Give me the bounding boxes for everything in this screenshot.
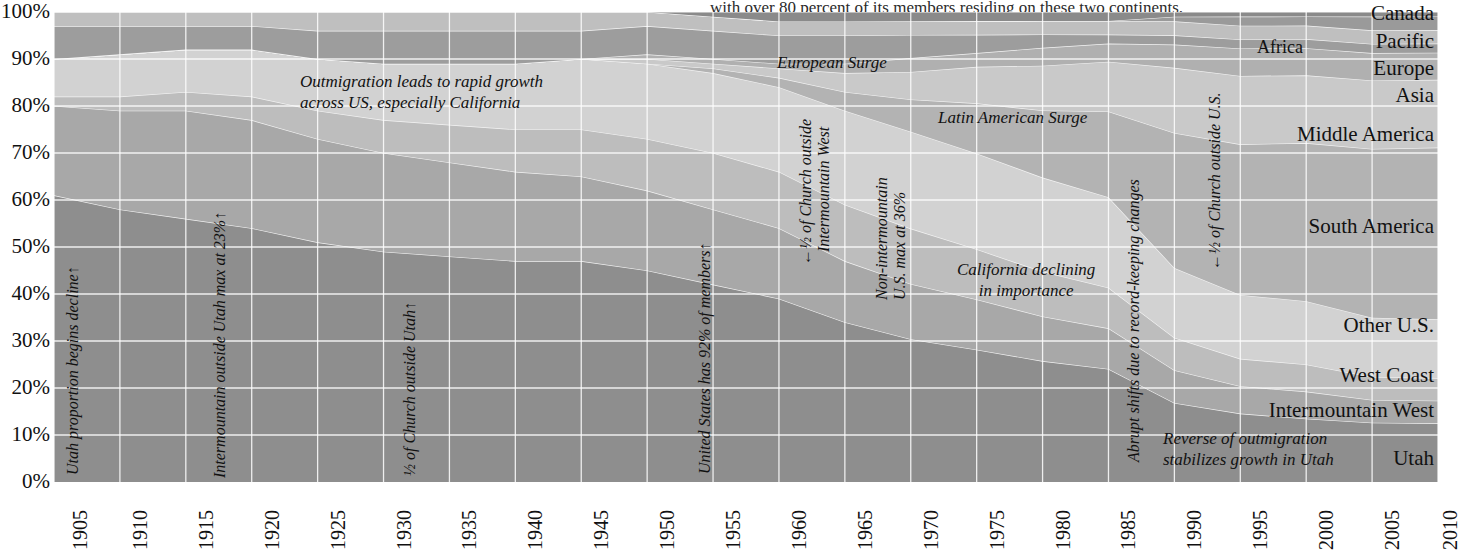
category-label-europe: Europe [1373, 57, 1434, 79]
plot-area [54, 12, 1438, 482]
annotation-reverse-outmigration: Reverse of outmigration stabilizes growt… [1163, 428, 1334, 470]
arrow-up-icon: ↑ [696, 242, 713, 250]
x-tick-1910: 1910 [130, 510, 150, 550]
annotation-california-declining: California declining in importance [957, 259, 1095, 301]
x-axis: 1905191019151920192519301935194019451950… [0, 484, 1438, 556]
annotation-outmigration-line2: across US, especially California [300, 92, 543, 113]
arrow-up-icon: ↑ [401, 302, 418, 310]
y-tick-60: 60% [0, 189, 50, 210]
x-tick-1965: 1965 [855, 510, 875, 550]
category-label-utah: Utah [1393, 447, 1434, 469]
arrow-up-icon: ↑ [211, 212, 228, 220]
annotation-latin-american-surge: Latin American Surge [938, 107, 1087, 128]
annotation-utah-decline: Utah proportion begins decline↑ [64, 266, 82, 475]
x-tick-1940: 1940 [525, 510, 545, 550]
category-label-africa: Africa [1257, 36, 1303, 58]
annotation-half-outside-us-text: ½ of Church outside U.S. [1206, 92, 1223, 254]
x-tick-2010: 2010 [1440, 510, 1460, 550]
category-label-south-america: South America [1309, 215, 1434, 237]
arrow-left-icon: ← [1206, 254, 1223, 270]
x-tick-1930: 1930 [394, 510, 414, 550]
x-tick-2000: 2000 [1316, 510, 1336, 550]
x-tick-1960: 1960 [789, 510, 809, 550]
annotation-california-line2: in importance [957, 280, 1095, 301]
annotation-half-outside-intermountain: ←½ of Church outside Intermountain West [797, 119, 833, 265]
y-tick-20: 20% [0, 377, 50, 398]
annotation-abrupt-shifts: Abrupt shifts due to record-keeping chan… [1125, 179, 1143, 462]
stacked-area-svg [54, 12, 1438, 482]
x-tick-1980: 1980 [1053, 510, 1073, 550]
x-tick-1935: 1935 [459, 510, 479, 550]
arrow-up-icon: ↑ [64, 266, 81, 274]
y-tick-50: 50% [0, 236, 50, 257]
annotation-half-intermountain-text1: ½ of Church outside [797, 119, 814, 249]
y-tick-80: 80% [0, 95, 50, 116]
arrow-left-icon: ← [797, 249, 814, 265]
x-tick-1945: 1945 [591, 510, 611, 550]
category-label-middle-america: Middle America [1297, 123, 1434, 145]
annotation-us-92-percent: United States has 92% of members↑ [696, 242, 714, 474]
x-tick-1950: 1950 [657, 510, 677, 550]
category-label-asia: Asia [1396, 84, 1435, 106]
x-tick-1985: 1985 [1118, 510, 1138, 550]
category-label-intermountain-west: Intermountain West [1269, 399, 1434, 421]
y-tick-40: 40% [0, 283, 50, 304]
x-tick-1955: 1955 [723, 510, 743, 550]
annotation-non-intermountain-line1: Non-intermountain [873, 177, 891, 300]
annotation-half-intermountain-text2: Intermountain West [815, 127, 832, 252]
x-tick-1925: 1925 [328, 510, 348, 550]
annotation-outmigration-line1: Outmigration leads to rapid growth [300, 71, 543, 92]
y-tick-90: 90% [0, 48, 50, 69]
annotation-california-line1: California declining [957, 259, 1095, 280]
x-tick-1920: 1920 [262, 510, 282, 550]
annotation-half-intermountain-line2: Intermountain West [815, 119, 833, 265]
annotation-outmigration: Outmigration leads to rapid growth acros… [300, 71, 543, 113]
category-label-west-coast: West Coast [1339, 364, 1434, 386]
x-tick-2005: 2005 [1382, 510, 1402, 550]
annotation-reverse-line2: stabilizes growth in Utah [1163, 449, 1334, 470]
annotation-half-outside-utah-text: ½ of Church outside Utah [401, 310, 418, 476]
category-label-other-us: Other U.S. [1344, 314, 1434, 336]
y-tick-30: 30% [0, 330, 50, 351]
annotation-non-intermountain-line2: U.S. max at 36% [891, 177, 909, 300]
x-tick-1915: 1915 [196, 510, 216, 550]
x-tick-1970: 1970 [921, 510, 941, 550]
annotation-us-92-percent-text: United States has 92% of members [696, 250, 713, 474]
annotation-intermountain-max-text: Intermountain outside Utah max at 23% [211, 220, 228, 478]
y-tick-100: 100% [0, 1, 50, 22]
annotation-european-surge: European Surge [777, 52, 887, 73]
x-tick-1975: 1975 [987, 510, 1007, 550]
y-tick-10: 10% [0, 424, 50, 445]
annotation-non-intermountain-max: Non-intermountain U.S. max at 36% [873, 177, 909, 300]
annotation-half-intermountain-line1: ←½ of Church outside [797, 119, 815, 265]
y-tick-70: 70% [0, 142, 50, 163]
annotation-reverse-line1: Reverse of outmigration [1163, 428, 1334, 449]
x-tick-1995: 1995 [1250, 510, 1270, 550]
category-label-canada: Canada [1371, 2, 1434, 24]
annotation-half-outside-utah: ½ of Church outside Utah↑ [401, 302, 419, 476]
x-tick-1990: 1990 [1184, 510, 1204, 550]
x-tick-1905: 1905 [70, 510, 90, 550]
annotation-utah-decline-text: Utah proportion begins decline [64, 274, 81, 475]
annotation-intermountain-max: Intermountain outside Utah max at 23%↑ [211, 212, 229, 478]
annotation-half-outside-us: ←½ of Church outside U.S. [1206, 92, 1224, 270]
category-label-pacific: Pacific [1376, 30, 1434, 52]
